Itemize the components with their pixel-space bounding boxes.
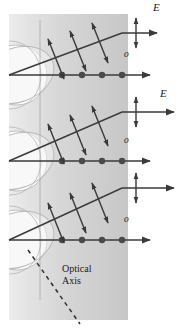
label-extraordinary-1: E <box>153 2 160 14</box>
label-ordinary-2: o <box>124 136 129 146</box>
label-ordinary-3: o <box>124 215 129 225</box>
optical-axis-label-line2: Axis <box>62 276 81 287</box>
label-ordinary-1: o <box>124 50 129 60</box>
label-extraordinary-2: E <box>160 88 167 100</box>
birefringence-figure: E o E o o Optical Axis <box>0 0 182 334</box>
figure-canvas <box>0 0 182 334</box>
optical-axis-label-line1: Optical <box>62 264 91 275</box>
